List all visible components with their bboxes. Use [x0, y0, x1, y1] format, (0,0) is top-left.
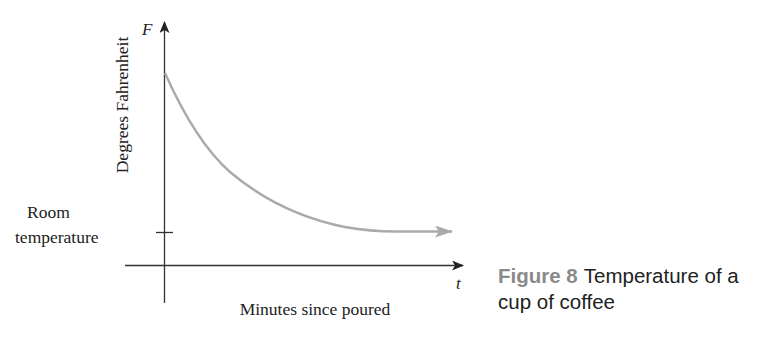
- x-axis-title: Minutes since poured: [240, 299, 391, 319]
- figure-number: Figure 8: [498, 264, 578, 287]
- y-axis-symbol: F: [141, 20, 153, 39]
- figure-caption: Figure 8Temperature of a cup of coffee: [498, 263, 763, 315]
- room-temperature-label-line1: Room: [27, 202, 70, 222]
- x-axis-symbol: t: [456, 274, 462, 293]
- temperature-curve: [165, 73, 452, 232]
- y-axis-title: Degrees Fahrenheit: [112, 37, 132, 174]
- room-temperature-label-line2: temperature: [15, 227, 99, 247]
